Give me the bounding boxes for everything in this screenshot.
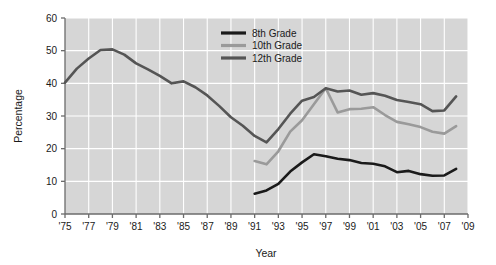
x-tick-label: '05 — [414, 221, 427, 232]
y-tick-label: 30 — [46, 111, 58, 122]
x-tick-label: '75 — [58, 221, 71, 232]
y-tick-label: 50 — [46, 45, 58, 56]
x-tick-label: '03 — [390, 221, 403, 232]
y-tick-label: 20 — [46, 143, 58, 154]
x-tick-label: '81 — [130, 221, 143, 232]
y-tick-label: 0 — [51, 209, 57, 220]
x-tick-label: '83 — [153, 221, 166, 232]
y-tick-label: 40 — [46, 78, 58, 89]
line-chart: 0102030405060 '75'77'79'81'83'85'87'89'9… — [0, 0, 496, 265]
legend: 8th Grade10th Grade12th Grade — [221, 28, 302, 64]
y-tick-label: 10 — [46, 176, 58, 187]
x-tick-label: '89 — [224, 221, 237, 232]
x-tick-label: '77 — [82, 221, 95, 232]
y-tick-label: 60 — [46, 13, 58, 24]
x-tick-label: '87 — [201, 221, 214, 232]
x-tick-label: '97 — [319, 221, 332, 232]
x-tick-label: '95 — [296, 221, 309, 232]
x-tick-label: '01 — [367, 221, 380, 232]
x-axis-title: Year — [255, 247, 277, 259]
x-tick-label: '09 — [461, 221, 474, 232]
legend-label: 12th Grade — [252, 53, 302, 64]
x-tick-label: '93 — [272, 221, 285, 232]
x-tick-label: '91 — [248, 221, 261, 232]
x-tick-label: '85 — [177, 221, 190, 232]
y-axis-title: Percentage — [12, 89, 24, 143]
legend-label: 10th Grade — [252, 40, 302, 51]
chart-container: 0102030405060 '75'77'79'81'83'85'87'89'9… — [0, 0, 496, 265]
legend-label: 8th Grade — [252, 28, 297, 39]
x-tick-label: '07 — [438, 221, 451, 232]
x-tick-label: '99 — [343, 221, 356, 232]
x-tick-label: '79 — [106, 221, 119, 232]
